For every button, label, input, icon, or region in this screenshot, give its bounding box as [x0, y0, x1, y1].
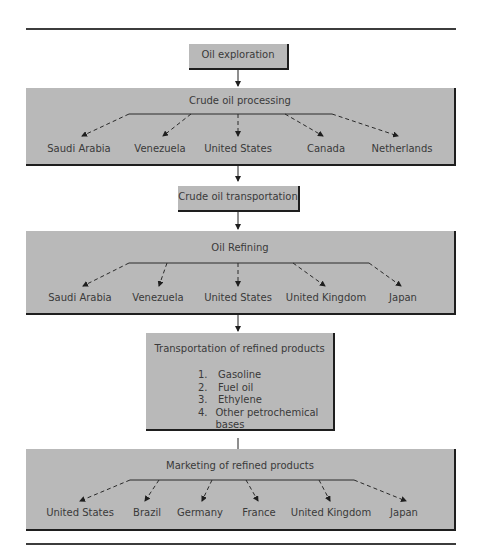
step-oil-refining: Oil Refining Saudi Arabia Venezuela Unit…	[26, 231, 456, 315]
step-label: Crude oil transportation	[178, 191, 297, 202]
country-label: United States	[46, 507, 114, 518]
country-label: United Kingdom	[291, 507, 371, 518]
product-item: 4. Other petrochemical bases	[198, 407, 333, 432]
step-label: Transportation of refined products	[146, 343, 333, 354]
item-text: Gasoline	[218, 369, 261, 382]
item-number: 2.	[198, 382, 218, 395]
step-crude-oil-transportation: Crude oil transportation	[178, 186, 300, 212]
country-label: Netherlands	[372, 143, 433, 154]
item-number: 3.	[198, 394, 218, 407]
step-label: Oil exploration	[201, 49, 274, 60]
product-item: 3. Ethylene	[198, 394, 333, 407]
item-text: Other petrochemical bases	[215, 407, 333, 432]
country-label: Japan	[390, 507, 418, 518]
item-text: Ethylene	[218, 394, 262, 407]
country-label: Saudi Arabia	[47, 143, 110, 154]
product-list: 1. Gasoline 2. Fuel oil 3. Ethylene 4. O…	[198, 369, 333, 432]
step-marketing-refined-products: Marketing of refined products United Sta…	[26, 449, 456, 531]
country-label: Venezuela	[134, 143, 185, 154]
step-oil-exploration: Oil exploration	[189, 44, 289, 70]
country-label: Canada	[307, 143, 345, 154]
item-number: 4.	[198, 407, 215, 432]
country-label: United States	[204, 292, 272, 303]
step-transportation-refined-products: Transportation of refined products 1. Ga…	[146, 333, 335, 431]
item-number: 1.	[198, 369, 218, 382]
country-label: France	[242, 507, 275, 518]
product-item: 2. Fuel oil	[198, 382, 333, 395]
country-label: Germany	[177, 507, 223, 518]
bottom-rule	[26, 543, 456, 545]
product-item: 1. Gasoline	[198, 369, 333, 382]
country-label: United States	[204, 143, 272, 154]
country-label: Brazil	[133, 507, 161, 518]
step-crude-oil-processing: Crude oil processing Saudi Arabia Venezu…	[26, 88, 456, 166]
country-label: United Kingdom	[286, 292, 366, 303]
country-label: Venezuela	[132, 292, 183, 303]
branch-arrows	[26, 449, 456, 531]
item-text: Fuel oil	[218, 382, 253, 395]
branch-arrows	[26, 88, 456, 166]
country-label: Saudi Arabia	[48, 292, 111, 303]
country-label: Japan	[389, 292, 417, 303]
